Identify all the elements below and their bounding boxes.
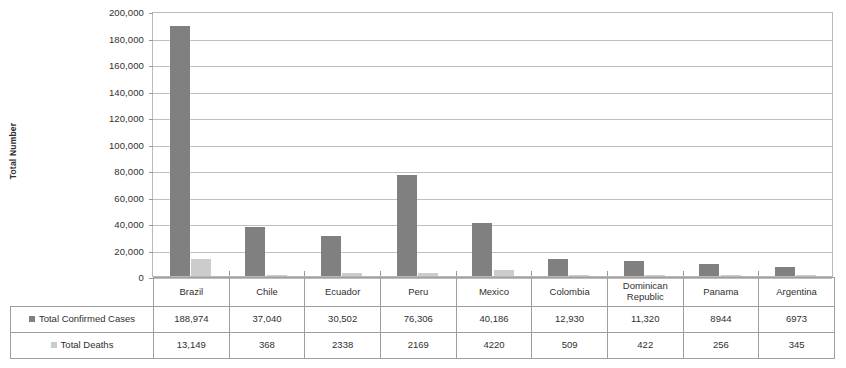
data-table: BrazilChileEcuadorPeruMexicoColombiaDomi… bbox=[10, 277, 835, 359]
bar-confirmed-cases bbox=[699, 264, 719, 276]
category-separator bbox=[304, 271, 305, 276]
bar-confirmed-cases bbox=[170, 26, 190, 276]
bar-deaths bbox=[569, 275, 589, 276]
bar-confirmed-cases bbox=[321, 236, 341, 276]
table-cell-value: 256 bbox=[683, 333, 759, 359]
bar-deaths bbox=[342, 273, 362, 276]
table-cell-value: 4220 bbox=[456, 333, 532, 359]
y-axis-tickmark bbox=[149, 119, 153, 120]
table-cell-value: 188,974 bbox=[154, 307, 230, 333]
y-axis-tick-label: 40,000 bbox=[114, 219, 144, 230]
legend-swatch-icon bbox=[29, 316, 35, 322]
bar-deaths bbox=[191, 259, 211, 276]
category-label: Chile bbox=[256, 286, 278, 297]
table-column-header: Chile bbox=[229, 278, 305, 307]
gridline bbox=[153, 172, 832, 173]
data-table-container: BrazilChileEcuadorPeruMexicoColombiaDomi… bbox=[10, 277, 834, 358]
category-separator bbox=[380, 271, 381, 276]
category-separator bbox=[607, 271, 608, 276]
table-cell-value: 11,320 bbox=[607, 307, 683, 333]
bar-deaths bbox=[645, 275, 665, 276]
y-axis-tick-label: 200,000 bbox=[109, 7, 144, 18]
gridline bbox=[153, 225, 832, 226]
plot-area bbox=[152, 12, 833, 277]
table-cell-value: 12,930 bbox=[532, 307, 608, 333]
table-cell-value: 2169 bbox=[380, 333, 456, 359]
y-axis-tickmark bbox=[149, 172, 153, 173]
bar-deaths bbox=[796, 275, 816, 276]
table-cell-value: 422 bbox=[607, 333, 683, 359]
y-axis-tickmark bbox=[149, 13, 153, 14]
category-label: Ecuador bbox=[325, 286, 360, 297]
category-separator bbox=[456, 271, 457, 276]
category-separator bbox=[758, 271, 759, 276]
series-legend-row-label: Total Confirmed Cases bbox=[11, 307, 154, 333]
table-column-header: Peru bbox=[380, 278, 456, 307]
category-separator bbox=[531, 271, 532, 276]
gridline bbox=[153, 119, 832, 120]
y-axis-tickmark bbox=[149, 40, 153, 41]
table-cell-value: 13,149 bbox=[154, 333, 230, 359]
table-cell-value: 40,186 bbox=[456, 307, 532, 333]
table-column-header: Colombia bbox=[532, 278, 608, 307]
table-cell-value: 37,040 bbox=[229, 307, 305, 333]
category-label: Panama bbox=[703, 286, 738, 297]
gridline bbox=[153, 66, 832, 67]
bar-confirmed-cases bbox=[245, 227, 265, 276]
y-axis-tickmark bbox=[149, 199, 153, 200]
y-axis-tickmark bbox=[149, 252, 153, 253]
plot-inner bbox=[153, 13, 832, 276]
table-corner-cell bbox=[11, 278, 154, 307]
table-cell-value: 30,502 bbox=[305, 307, 381, 333]
y-axis-tick-label: 160,000 bbox=[109, 60, 144, 71]
series-legend-row-label: Total Deaths bbox=[11, 333, 154, 359]
y-axis-tick-label: 20,000 bbox=[114, 245, 144, 256]
gridline bbox=[153, 199, 832, 200]
category-label: Colombia bbox=[550, 286, 590, 297]
table-cell-value: 8944 bbox=[683, 307, 759, 333]
series-name: Total Confirmed Cases bbox=[39, 313, 135, 324]
bar-chart-with-data-table: Total Number 200,000180,000160,000140,00… bbox=[0, 0, 846, 368]
y-axis-tickmark bbox=[149, 66, 153, 67]
y-axis-tick-label: 60,000 bbox=[114, 192, 144, 203]
category-label: Argentina bbox=[776, 286, 817, 297]
table-row: Total Deaths13,1493682338216942205094222… bbox=[11, 333, 835, 359]
y-axis-tickmark bbox=[149, 146, 153, 147]
category-label: Peru bbox=[408, 286, 428, 297]
table-column-header: Panama bbox=[683, 278, 759, 307]
category-separator bbox=[683, 271, 684, 276]
bar-deaths bbox=[721, 275, 741, 276]
y-axis-tickmark bbox=[149, 93, 153, 94]
table-column-header: Ecuador bbox=[305, 278, 381, 307]
bar-deaths bbox=[418, 273, 438, 276]
y-axis-tick-label: 100,000 bbox=[109, 139, 144, 150]
bar-confirmed-cases bbox=[624, 261, 644, 276]
table-column-header: Dominican Republic bbox=[607, 278, 683, 307]
table-column-header: Brazil bbox=[154, 278, 230, 307]
table-cell-value: 509 bbox=[532, 333, 608, 359]
table-row: Total Confirmed Cases188,97437,04030,502… bbox=[11, 307, 835, 333]
table-header-row: BrazilChileEcuadorPeruMexicoColombiaDomi… bbox=[11, 278, 835, 307]
table-cell-value: 2338 bbox=[305, 333, 381, 359]
gridline bbox=[153, 146, 832, 147]
category-label: Brazil bbox=[179, 286, 203, 297]
category-label: Mexico bbox=[479, 286, 509, 297]
bar-deaths bbox=[494, 270, 514, 276]
y-axis-tick-label: 180,000 bbox=[109, 33, 144, 44]
bar-deaths bbox=[267, 275, 287, 276]
series-name: Total Deaths bbox=[61, 339, 114, 350]
gridline bbox=[153, 40, 832, 41]
table-cell-value: 6973 bbox=[759, 307, 835, 333]
category-label: Dominican Republic bbox=[623, 280, 668, 302]
table-column-header: Mexico bbox=[456, 278, 532, 307]
table-cell-value: 368 bbox=[229, 333, 305, 359]
bar-confirmed-cases bbox=[397, 175, 417, 276]
bar-confirmed-cases bbox=[775, 267, 795, 276]
gridline bbox=[153, 93, 832, 94]
table-cell-value: 345 bbox=[759, 333, 835, 359]
y-axis-tickmark bbox=[149, 225, 153, 226]
table-column-header: Argentina bbox=[759, 278, 835, 307]
y-axis-tick-label: 140,000 bbox=[109, 86, 144, 97]
y-axis-tick-labels: 200,000180,000160,000140,000120,000100,0… bbox=[82, 12, 148, 277]
category-separator bbox=[229, 271, 230, 276]
